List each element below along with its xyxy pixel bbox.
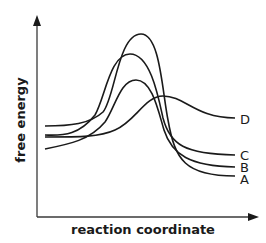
label-d: D <box>240 112 250 127</box>
curve-d <box>45 96 235 137</box>
y-axis-label: free energy <box>13 77 28 163</box>
x-axis-label: reaction coordinate <box>71 222 215 237</box>
curve-c <box>45 54 235 155</box>
label-a: A <box>240 172 249 187</box>
curve-b <box>45 80 235 167</box>
energy-diagram: D C B A reaction coordinate free energy <box>0 0 266 243</box>
y-axis-arrow-icon <box>33 15 41 26</box>
curve-a <box>45 34 235 176</box>
x-axis-arrow-icon <box>248 213 259 221</box>
